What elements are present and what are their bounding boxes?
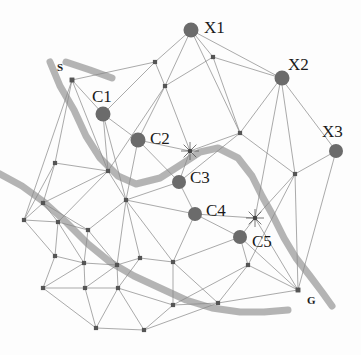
graph-edge (144, 305, 173, 330)
graph-edge (24, 80, 72, 220)
node-x1[interactable] (184, 23, 199, 38)
mesh-node[interactable] (94, 326, 98, 330)
mesh-node[interactable] (83, 286, 87, 290)
graph-edge (126, 200, 195, 214)
mesh-node[interactable] (41, 201, 45, 205)
node-c1[interactable] (96, 107, 111, 122)
mesh-node[interactable] (124, 198, 128, 202)
mesh-node[interactable] (56, 220, 60, 224)
graph-edge (191, 30, 281, 78)
label-c1: C1 (92, 88, 112, 105)
mesh-node[interactable] (138, 256, 142, 260)
graph-edge (96, 328, 144, 330)
path-lower (0, 174, 288, 312)
graph-edge (255, 78, 281, 218)
graph-edge (88, 200, 126, 230)
graph-edge (55, 256, 84, 263)
graph-edge (281, 78, 295, 174)
graph-edge (117, 258, 140, 265)
mesh-node[interactable] (22, 218, 26, 222)
mesh-node[interactable] (53, 254, 57, 258)
mesh-node[interactable] (86, 228, 90, 232)
mesh-node[interactable] (106, 169, 110, 173)
graph-edge (58, 171, 108, 222)
label-c3: C3 (190, 169, 210, 186)
path-group (0, 62, 332, 312)
mesh-node[interactable] (238, 131, 242, 135)
star-center (253, 216, 257, 220)
graph-edge (117, 200, 126, 265)
label-x1: X1 (204, 19, 225, 36)
node-c4[interactable] (188, 207, 202, 221)
mesh-node[interactable] (41, 286, 45, 290)
label-x2: X2 (288, 56, 309, 73)
mesh-node[interactable] (116, 286, 120, 290)
graph-edge (24, 220, 58, 222)
graph-edge (118, 288, 144, 330)
mesh-node[interactable] (171, 260, 175, 264)
node-x3[interactable] (329, 144, 343, 158)
star-1-icon (181, 142, 199, 160)
graph-edge (144, 303, 218, 330)
mesh-node[interactable] (82, 261, 86, 265)
graph-edge (191, 30, 240, 133)
node-c3[interactable] (172, 175, 186, 189)
graph-edge (84, 263, 85, 288)
star-center (188, 149, 192, 153)
mesh-node[interactable] (153, 60, 157, 64)
label-g: G (307, 295, 316, 306)
node-s[interactable] (70, 78, 75, 83)
graph-edge (298, 151, 336, 290)
node-c5[interactable] (233, 230, 247, 244)
graph-edge (55, 222, 58, 256)
graph-edge (140, 258, 173, 262)
graph-edge (85, 288, 96, 328)
mesh-node[interactable] (216, 301, 220, 305)
mesh-node[interactable] (53, 161, 57, 165)
graph-edge (165, 30, 191, 86)
graph-edge (96, 288, 118, 328)
graph-edge (295, 174, 298, 290)
graph-edge (24, 220, 55, 256)
graph-edge (43, 263, 84, 288)
graph-edge (118, 258, 140, 288)
label-s: S (57, 62, 63, 73)
graph-edge (43, 163, 55, 203)
path-branch (66, 62, 112, 78)
graph-edge (295, 151, 336, 174)
mesh-node[interactable] (142, 328, 146, 332)
node-g[interactable] (296, 288, 301, 293)
graph-diagram-figure: X1X2X3C1C2C3C4C5SG (0, 0, 361, 355)
graph-edge (240, 78, 281, 133)
graph-edge (173, 265, 248, 305)
graph-edge (218, 290, 298, 303)
node-c2[interactable] (131, 133, 146, 148)
mesh-node[interactable] (163, 84, 167, 88)
label-c4: C4 (206, 202, 226, 219)
graph-edge (43, 256, 55, 288)
mesh-node[interactable] (115, 263, 119, 267)
graph-edge (43, 288, 96, 328)
graph-edge (55, 163, 108, 171)
graph-edge (85, 265, 117, 288)
mesh-node[interactable] (211, 55, 215, 59)
graph-edge (43, 171, 108, 203)
mesh-node[interactable] (171, 303, 175, 307)
graph-edge (155, 62, 165, 86)
mesh-node[interactable] (246, 263, 250, 267)
star-2-icon (246, 209, 264, 227)
mesh-node[interactable] (293, 172, 297, 176)
label-c2: C2 (150, 130, 170, 147)
label-c5: C5 (252, 233, 272, 250)
label-x3: X3 (322, 123, 343, 140)
graph-edge (213, 57, 240, 133)
graph-edge (126, 140, 138, 200)
graph-edge (218, 265, 248, 303)
